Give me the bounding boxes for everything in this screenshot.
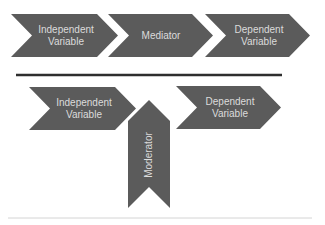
label-line2: Variable (48, 36, 84, 47)
mediation-dependent-variable-chevron: Dependent Variable (205, 14, 310, 57)
label-line2: Variable (241, 36, 277, 47)
moderator-arrow: Moderator (128, 100, 170, 208)
mediator-chevron: Mediator (108, 14, 213, 57)
label-line2: Variable (66, 109, 102, 120)
mediation-moderation-diagram: Independent Variable Mediator Dependent … (0, 0, 325, 225)
label-line1: Independent (38, 24, 94, 35)
moderator-label: Moderator (143, 132, 154, 178)
moderation-model: Independent Variable Dependent Variable … (29, 86, 281, 208)
label-line1: Mediator (142, 30, 182, 41)
label-line2: Variable (212, 108, 248, 119)
label-line1: Dependent (235, 24, 284, 35)
mediation-independent-variable-chevron: Independent Variable (11, 14, 118, 57)
label-line1: Independent (56, 97, 112, 108)
label-line1: Dependent (206, 96, 255, 107)
moderation-dependent-variable-chevron: Dependent Variable (176, 86, 281, 129)
mediation-model: Independent Variable Mediator Dependent … (11, 14, 310, 57)
moderation-independent-variable-chevron: Independent Variable (29, 87, 136, 130)
